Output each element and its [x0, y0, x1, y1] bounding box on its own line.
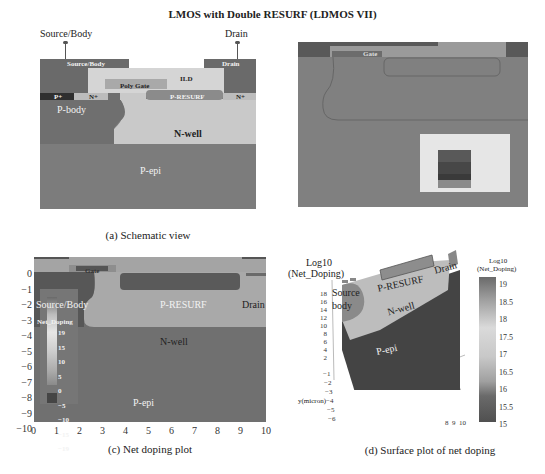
d-colorbar-title-2: (Net_Doping) [477, 265, 516, 273]
d-colorbar-tick: 17 [499, 346, 513, 364]
d-y-tick: −2 [324, 379, 335, 388]
d-y-tick: −1 [323, 370, 335, 379]
d-z-tick: 8 [313, 330, 327, 338]
d-y-tick: −3 [325, 388, 335, 397]
d-colorbar [479, 277, 496, 422]
d-z-tick: 2 [313, 354, 327, 362]
d-colorbar-title-1: Log10 [489, 257, 507, 265]
d-y-tick: −4 [326, 397, 335, 406]
d-y-axis-label: y(micron) [298, 397, 326, 405]
d-colorbar-tick: 16 [499, 381, 513, 399]
d-y-tick: −6 [328, 415, 335, 424]
d-colorbar-tick: 16.5 [499, 364, 513, 382]
d-z-tick: 14 [313, 306, 327, 314]
d-x-axis-ticks: 8 9 10 [445, 419, 466, 427]
d-z-tick: 18 [313, 290, 327, 298]
d-x-tick: 9 [452, 419, 456, 427]
d-colorbar-tick: 15.5 [499, 399, 513, 417]
d-x-tick: 10 [459, 419, 466, 427]
d-colorbar-tick: 19 [499, 276, 513, 294]
d-z-tick: 10 [313, 322, 327, 330]
d-z-tick: 16 [313, 298, 327, 306]
d-colorbar-tick: 18.5 [499, 294, 513, 312]
d-z-tick: 12 [313, 314, 327, 322]
d-z-axis-ticks: 18 16 14 12 10 8 6 4 2 [313, 290, 327, 362]
d-y-tick: −5 [327, 406, 335, 415]
d-colorbar-ticks: 19 18.5 18 17.5 17 16.5 16 15.5 15 [499, 276, 513, 434]
d-z-tick: 6 [313, 338, 327, 346]
d-caption: (d) Surface plot of net doping [330, 444, 530, 456]
d-colorbar-tick: 18 [499, 311, 513, 329]
d-z-tick: 4 [313, 346, 327, 354]
d-colorbar-tick: 17.5 [499, 329, 513, 347]
d-colorbar-tick: 15 [499, 416, 513, 434]
d-source-body-label: Source body [332, 286, 372, 312]
panel-d-surface-plot: Log10 (Net_Doping) 18 16 14 12 10 8 6 4 … [0, 0, 545, 474]
d-x-tick: 8 [445, 419, 449, 427]
